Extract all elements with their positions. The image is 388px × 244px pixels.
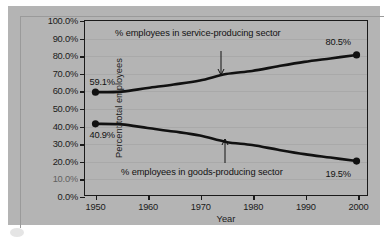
y-tick-label: 0.0% — [58, 192, 78, 202]
y-tick-label: 30.0% — [53, 139, 78, 149]
x-tick-label: 1950 — [86, 202, 106, 212]
y-tick-label: 20.0% — [53, 157, 78, 167]
y-tick — [80, 197, 85, 198]
x-tick-label: 2000 — [349, 202, 369, 212]
plot-area: Percent total employees 0.0%10.0%20.0%30… — [84, 20, 368, 196]
y-tick-label: 10.0% — [53, 174, 78, 184]
x-tick-label: 1970 — [191, 202, 211, 212]
x-axis-title: Year — [84, 214, 368, 224]
annotation-arrow — [85, 21, 369, 197]
scan-artifact — [10, 228, 24, 237]
y-tick-label: 50.0% — [53, 104, 78, 114]
y-tick-label: 80.0% — [53, 51, 78, 61]
y-tick-label: 100.0% — [48, 16, 78, 26]
y-tick-label: 60.0% — [53, 86, 78, 96]
y-tick-label: 40.0% — [53, 122, 78, 132]
y-tick-label: 70.0% — [53, 69, 78, 79]
x-tick-label: 1960 — [138, 202, 158, 212]
x-tick-label: 1980 — [243, 202, 263, 212]
chart-figure: Year Percent total employees 0.0%10.0%20… — [0, 0, 388, 244]
x-tick-label: 1990 — [296, 202, 316, 212]
y-tick-label: 90.0% — [53, 34, 78, 44]
